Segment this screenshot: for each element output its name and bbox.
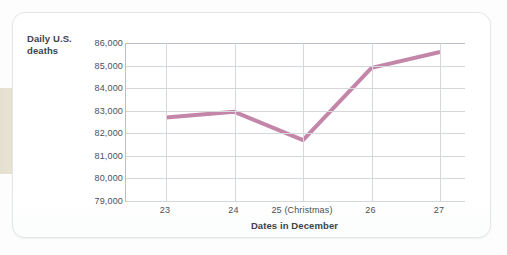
x-axis-title: Dates in December <box>125 220 464 231</box>
y-axis-tick-label: 83,000 <box>73 106 123 116</box>
y-axis-tick-label: 84,000 <box>73 83 123 93</box>
data-line-svg <box>126 43 465 201</box>
vertical-gridline <box>372 43 373 201</box>
horizontal-gridline <box>126 178 465 179</box>
horizontal-gridline <box>126 88 465 89</box>
vertical-gridline <box>440 43 441 201</box>
y-axis-tick-labels: 79,00080,00081,00082,00083,00084,00085,0… <box>73 43 123 201</box>
y-axis-tick-label: 86,000 <box>73 38 123 48</box>
x-axis-tick-label: 24 <box>228 205 238 215</box>
vertical-gridline <box>235 43 236 201</box>
x-axis-tick-label: 23 <box>160 205 170 215</box>
line-chart: Daily U.S. deaths 79,00080,00081,00082,0… <box>13 13 492 239</box>
x-axis-tick-label: 27 <box>434 205 444 215</box>
horizontal-gridline <box>126 201 465 202</box>
chart-card: Daily U.S. deaths 79,00080,00081,00082,0… <box>12 12 491 238</box>
x-axis-tick-label: 25 (Christmas) <box>271 205 332 215</box>
horizontal-gridline <box>126 133 465 134</box>
vertical-gridline <box>166 43 167 201</box>
vertical-gridline <box>303 43 304 201</box>
y-axis-tick-label: 82,000 <box>73 128 123 138</box>
x-axis-tick-label: 26 <box>365 205 375 215</box>
horizontal-gridline <box>126 156 465 157</box>
horizontal-gridline <box>126 111 465 112</box>
y-axis-tick-label: 85,000 <box>73 61 123 71</box>
horizontal-gridline <box>126 66 465 67</box>
x-axis-tick-labels: 232425 (Christmas)2627 <box>125 205 464 219</box>
y-axis-tick-label: 81,000 <box>73 151 123 161</box>
y-axis-tick-label: 80,000 <box>73 173 123 183</box>
plot-area <box>125 43 465 202</box>
y-axis-tick-label: 79,000 <box>73 196 123 206</box>
